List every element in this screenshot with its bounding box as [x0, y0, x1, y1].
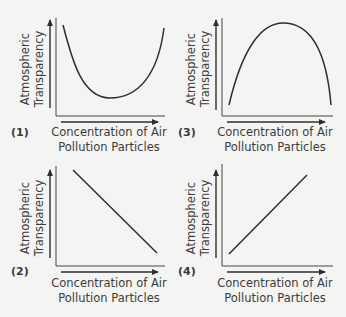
- u-curve: [63, 25, 164, 98]
- axis-frame: [56, 18, 165, 116]
- inverted-u-curve: [229, 23, 331, 105]
- x-axis-label: Concentration of Air Pollution Particles: [44, 125, 174, 155]
- graph-panel-2: Atmospheric Transparency (2) Concentrati…: [0, 158, 173, 316]
- graph-number: (3): [178, 126, 196, 139]
- graph-panel-3: Atmospheric Transparency (3) Concentrati…: [173, 0, 346, 158]
- axis-frame: [222, 18, 333, 116]
- y-axis-label: Atmospheric Transparency: [18, 168, 46, 268]
- increasing-line: [229, 175, 307, 254]
- x-axis-label: Concentration of Air Pollution Particles: [44, 276, 174, 306]
- y-axis-label: Atmospheric Transparency: [18, 19, 46, 119]
- decreasing-line: [73, 170, 157, 253]
- graph-panel-4: Atmospheric Transparency (4) Concentrati…: [173, 158, 346, 316]
- y-axis-label: Atmospheric Transparency: [184, 168, 212, 268]
- graph-number: (2): [11, 265, 29, 278]
- y-axis-label: Atmospheric Transparency: [184, 19, 212, 119]
- axis-frame: [56, 166, 165, 266]
- x-axis-label: Concentration of Air Pollution Particles: [210, 276, 340, 306]
- axis-frame: [222, 164, 333, 266]
- graph-number: (1): [11, 126, 29, 139]
- graph-panel-1: Atmospheric Transparency (1) Concentrati…: [0, 0, 173, 158]
- x-axis-label: Concentration of Air Pollution Particles: [210, 125, 340, 155]
- graph-number: (4): [178, 265, 196, 278]
